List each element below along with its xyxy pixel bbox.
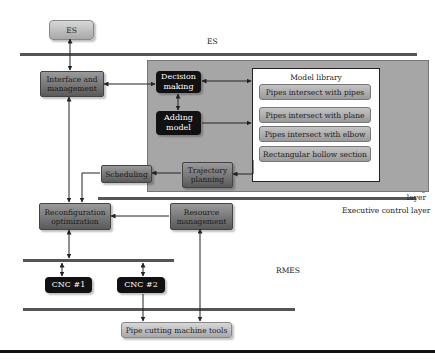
connector-arrows	[0, 0, 435, 360]
